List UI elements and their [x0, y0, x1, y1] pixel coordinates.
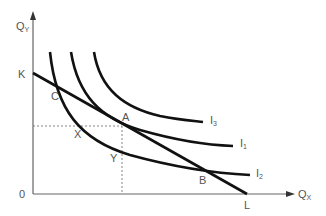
- curve-i3-label: I3: [210, 114, 217, 127]
- budget-line: [33, 73, 247, 194]
- origin-label: 0: [19, 188, 25, 200]
- x-axis-arrow-icon: [286, 191, 295, 197]
- y-axis-label: QY: [16, 20, 30, 33]
- indifference-curve-i1: [71, 52, 233, 146]
- point-c-label: C: [51, 90, 59, 102]
- indifference-diagram: QY QX 0 K L C A B X Y I3 I1 I2: [0, 0, 326, 216]
- indifference-curve-i3: [94, 52, 203, 122]
- curve-i1-label: I1: [240, 137, 247, 150]
- curve-i2-label: I2: [256, 167, 263, 180]
- point-l-label: L: [244, 199, 250, 211]
- point-b-label: B: [199, 174, 206, 186]
- point-a-label: A: [122, 111, 130, 123]
- point-x-label: X: [74, 128, 82, 140]
- y-axis-arrow-icon: [30, 11, 36, 20]
- point-y-label: Y: [110, 152, 118, 164]
- x-axis-label: QX: [298, 188, 312, 201]
- point-k-label: K: [18, 68, 26, 80]
